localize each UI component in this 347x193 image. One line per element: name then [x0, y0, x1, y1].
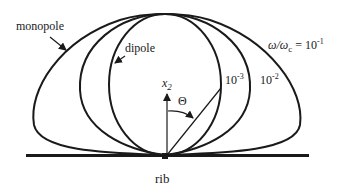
curve-1e-2-label: 10-2 [260, 72, 279, 87]
dipole-label: dipole [125, 41, 155, 55]
x2-axis-label: x2 [161, 76, 172, 92]
ratio-label: ω/ωc = 10-1 [268, 37, 324, 54]
dipole-leader-arrow [115, 56, 125, 63]
monopole-leader-arrow [50, 37, 66, 50]
theta-arc-arrow [168, 111, 193, 118]
curve-1e-3-label: 10-3 [225, 72, 244, 87]
radiation-pattern-diagram: monopole dipole rib x2 Θ ω/ωc = 10-1 10-… [0, 0, 347, 193]
theta-label: Θ [178, 94, 187, 108]
rib-label: rib [155, 171, 169, 186]
monopole-label: monopole [16, 19, 64, 33]
